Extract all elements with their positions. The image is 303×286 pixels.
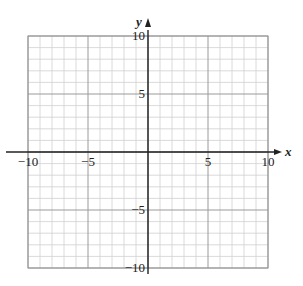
- x-axis-arrow-icon: [274, 149, 282, 155]
- x-tick-label: −10: [18, 154, 38, 169]
- y-tick-label: −10: [125, 260, 145, 275]
- y-tick-label: −5: [131, 202, 145, 217]
- x-tick-label: 10: [262, 154, 275, 169]
- x-tick-labels: −10−5510: [18, 154, 275, 169]
- x-tick-label: 5: [205, 154, 212, 169]
- y-tick-label: 10: [132, 28, 145, 43]
- y-tick-label: 5: [139, 86, 146, 101]
- y-axis-label: y: [134, 14, 142, 29]
- x-tick-label: −5: [81, 154, 95, 169]
- x-axis-label: x: [284, 144, 292, 159]
- y-axis-arrow-icon: [145, 18, 151, 27]
- coordinate-grid: −10−5510 105−5−10 x y: [0, 0, 303, 286]
- axes: [6, 18, 282, 274]
